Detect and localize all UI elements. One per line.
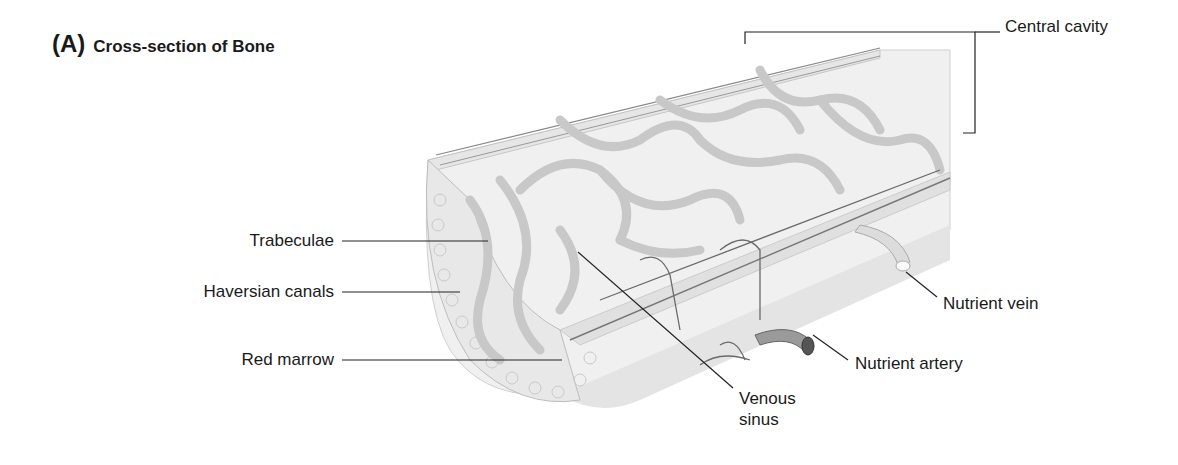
label-red-marrow: Red marrow [241,349,334,370]
label-trabeculae: Trabeculae [250,230,334,251]
nutrient-artery-leader [813,335,848,360]
label-venous-sinus-line1: Venous [739,388,796,409]
label-nutrient-vein: Nutrient vein [943,293,1038,314]
label-venous-sinus-line2: sinus [739,409,796,430]
nutrient-artery-shape [755,330,814,355]
label-venous-sinus: Venous sinus [739,388,796,430]
bone-illustration [0,0,1178,465]
label-nutrient-artery: Nutrient artery [855,353,963,374]
label-central-cavity: Central cavity [1005,16,1108,37]
label-haversian-canals: Haversian canals [204,281,334,302]
nutrient-vein-leader [906,272,937,297]
